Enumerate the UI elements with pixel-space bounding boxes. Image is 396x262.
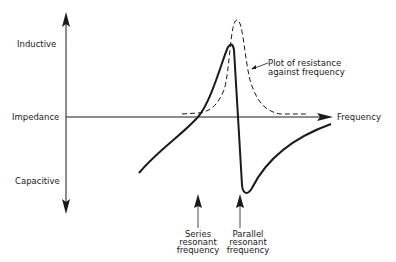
arrow-up-icon: [194, 194, 202, 208]
series-label-line3: frequency: [177, 245, 220, 255]
label-inductive: Inductive: [17, 39, 56, 49]
leader-arrow-icon: [251, 65, 256, 69]
parallel-label-line3: frequency: [227, 245, 270, 255]
impedance-diagram: Inductive Impedance Capacitive Frequency…: [0, 0, 396, 262]
label-capacitive: Capacitive: [15, 176, 60, 186]
series-resonant-marker: [194, 194, 202, 228]
label-impedance: Impedance: [12, 112, 59, 122]
resistance-label-line2: against frequency: [268, 67, 345, 77]
arrow-up-icon: [236, 194, 244, 208]
label-frequency: Frequency: [337, 112, 381, 122]
resistance-leader: [251, 63, 268, 69]
parallel-resonant-marker: [236, 194, 244, 228]
vertical-axis: [62, 12, 70, 214]
